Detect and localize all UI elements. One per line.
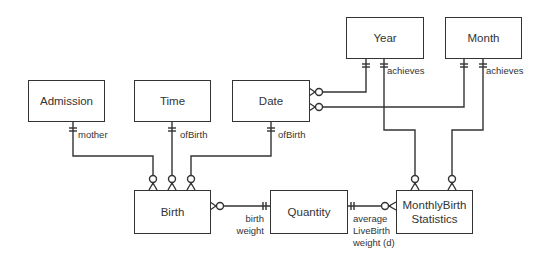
entity-label: Quantity <box>288 205 331 219</box>
entity-label-line1: MonthlyBirth <box>403 198 467 212</box>
rel-label-mother: mother <box>78 129 108 141</box>
entity-month[interactable]: Month <box>445 17 522 59</box>
rel-label-month-achieves: achieves <box>486 65 524 77</box>
entity-label: Birth <box>161 205 185 219</box>
entity-time[interactable]: Time <box>134 80 211 122</box>
rel-label-average-weight: average LiveBirth weight (d) <box>353 213 395 249</box>
entity-birth[interactable]: Birth <box>134 190 211 234</box>
entity-label: Month <box>468 31 500 45</box>
rel-label-year-achieves: achieves <box>387 65 425 77</box>
rel-line-year-date <box>314 58 366 92</box>
rel-label-birth-weight: birth weight <box>228 213 264 237</box>
rel-label-line: weight (d) <box>353 237 395 249</box>
entity-admission[interactable]: Admission <box>28 80 105 122</box>
entity-date[interactable]: Date <box>232 80 310 122</box>
entity-label: Date <box>259 94 283 108</box>
rel-line-month-achieves <box>452 58 483 185</box>
entity-quantity[interactable]: Quantity <box>270 190 348 234</box>
rel-label-line: weight <box>228 225 264 237</box>
entity-year[interactable]: Year <box>346 17 424 59</box>
entity-label: Admission <box>40 94 93 108</box>
entity-label-line2: Statistics <box>411 212 457 226</box>
rel-label-line: average <box>353 213 395 225</box>
rel-label-time-ofbirth: ofBirth <box>180 129 207 141</box>
rel-label-line: birth <box>228 213 264 225</box>
entity-label: Year <box>373 31 396 45</box>
entity-monthly-birth-statistics[interactable]: MonthlyBirth Statistics <box>396 190 473 234</box>
rel-label-date-ofbirth: ofBirth <box>278 129 305 141</box>
entity-label: Time <box>160 94 185 108</box>
rel-line-year-achieves <box>384 58 415 185</box>
rel-label-line: LiveBirth <box>353 225 395 237</box>
